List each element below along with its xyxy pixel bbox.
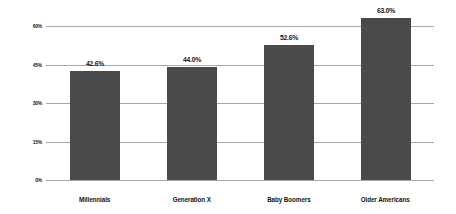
bars-layer: 42.6%44.0%52.6%63.0% xyxy=(46,26,434,180)
bar[interactable] xyxy=(361,18,411,180)
x-tick-label-slot: Generation X xyxy=(143,188,240,206)
x-tick-label: Millennials xyxy=(79,196,110,204)
bar-value-label: 52.6% xyxy=(279,34,297,42)
bar[interactable] xyxy=(167,67,217,180)
bar-chart: 0%15%30%45%60% 42.6%44.0%52.6%63.0% Mill… xyxy=(0,0,456,214)
bar-group: 63.0% xyxy=(337,26,434,180)
bar[interactable] xyxy=(264,45,314,180)
x-tick-label-slot: Older Americans xyxy=(337,188,434,206)
bar-value-label: 63.0% xyxy=(376,7,394,15)
bar-group: 42.6% xyxy=(46,26,143,180)
y-tick-label: 45% xyxy=(9,62,42,68)
x-axis-labels: MillennialsGeneration XBaby BoomersOlder… xyxy=(46,188,434,208)
y-tick-label: 60% xyxy=(9,23,42,29)
gridline-0 xyxy=(46,180,434,181)
x-tick-label-slot: Baby Boomers xyxy=(240,188,337,206)
x-tick-label: Generation X xyxy=(172,196,210,204)
y-tick-label: 30% xyxy=(9,100,42,106)
x-tick-label: Older Americans xyxy=(361,196,410,204)
bar-value-label: 42.6% xyxy=(85,60,103,68)
x-tick-label: Baby Boomers xyxy=(267,196,310,204)
y-tick-label: 15% xyxy=(9,139,42,145)
bar-group: 52.6% xyxy=(240,26,337,180)
y-tick-label: 0% xyxy=(9,177,42,183)
bar[interactable] xyxy=(70,71,120,180)
y-axis-labels: 0%15%30%45%60% xyxy=(0,26,42,180)
bar-group: 44.0% xyxy=(143,26,240,180)
bar-value-label: 44.0% xyxy=(182,56,200,64)
x-tick-label-slot: Millennials xyxy=(46,188,143,206)
